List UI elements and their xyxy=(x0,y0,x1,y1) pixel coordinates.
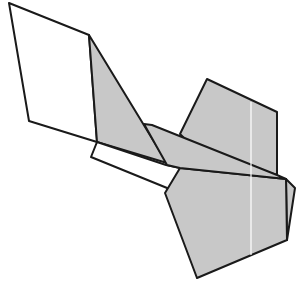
white-quad-face xyxy=(9,3,97,142)
folded-paper-figure xyxy=(0,0,305,287)
diagram-canvas xyxy=(0,0,305,287)
lower-pentagon-face xyxy=(165,168,287,278)
